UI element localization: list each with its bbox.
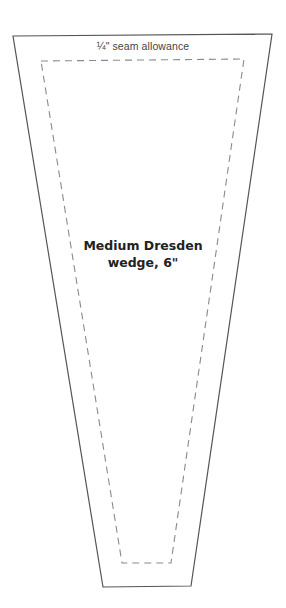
dresden-wedge-template: ¼" seam allowance Medium Dresden wedge, … — [0, 0, 286, 608]
seam-allowance-label: ¼" seam allowance — [0, 40, 286, 52]
template-title-line-1: Medium Dresden — [0, 237, 286, 254]
seam-allowance-dashed-outline — [41, 59, 244, 563]
template-title: Medium Dresden wedge, 6" — [0, 237, 286, 271]
template-drawing — [0, 0, 286, 608]
template-title-line-2: wedge, 6" — [0, 254, 286, 271]
cut-line-outline — [13, 34, 272, 587]
